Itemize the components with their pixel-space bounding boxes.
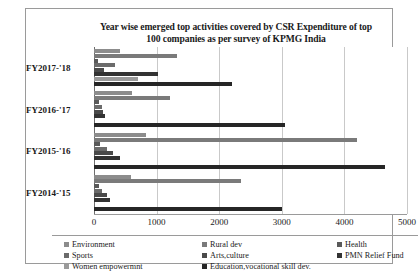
gridline-5000 [407,47,408,214]
legend-label: Rural dev [210,240,242,249]
x-axis-tick-label: 5000 [387,217,419,227]
legend-label: Women empowermnt [72,262,143,271]
bar [94,189,102,193]
bar [94,77,138,81]
bar-group [94,131,407,173]
bar [94,133,146,137]
chart-legend: EnvironmentRural devHealthSportsArts,cul… [52,235,418,273]
chart-frame: Year wise emerged top activities covered… [25,8,393,264]
legend-item[interactable]: Education,vocational skill dev. [202,262,311,271]
chart-title: Year wise emerged top activities covered… [62,21,410,44]
legend-label: Arts,culture [210,251,249,260]
bar [94,165,385,169]
bar [94,147,107,151]
x-axis-tick-label: 3000 [262,217,302,227]
bar [94,63,115,67]
bar [94,193,107,197]
bar [94,138,357,142]
bar [94,96,170,100]
y-axis-category-label: FY2014-'15 [26,188,92,198]
bar [94,179,241,183]
bar [94,82,232,86]
legend-swatch-icon [64,264,69,269]
legend-item[interactable]: Environment [64,240,115,249]
bar [94,142,100,146]
legend-item[interactable]: Arts,culture [202,251,249,260]
bar [94,184,99,188]
x-axis-tick-label: 0 [74,217,114,227]
legend-label: Sports [72,251,93,260]
x-axis-line [94,214,407,215]
bar [94,110,103,114]
bar-group [94,47,407,89]
legend-item[interactable]: Sports [64,251,93,260]
legend-swatch-icon [64,242,69,247]
legend-label: Environment [72,240,115,249]
bar [94,156,120,160]
bar [94,54,177,58]
y-axis-category-label: FY2016-'17 [26,105,92,115]
bar [94,123,285,127]
legend-swatch-icon [337,242,342,247]
bar-group [94,89,407,131]
bar [94,59,98,63]
bar [94,151,113,155]
y-axis-category-label: FY2017-'18 [26,63,92,73]
legend-swatch-icon [202,264,207,269]
bar [94,49,120,53]
plot-area [94,47,407,214]
bar-group [94,172,407,214]
bar [94,91,132,95]
bar [94,207,282,211]
bar [94,68,104,72]
legend-swatch-icon [202,253,207,258]
legend-item[interactable]: Women empowermnt [64,262,143,271]
legend-swatch-icon [202,242,207,247]
bar [94,105,102,109]
bar [94,198,110,202]
chart-title-line-1: Year wise emerged top activities covered… [62,21,410,33]
bar [94,175,131,179]
legend-label: Health [345,240,367,249]
legend-item[interactable]: Rural dev [202,240,242,249]
bar [94,114,105,118]
chart-title-line-2: 100 companies as per survey of KPMG Indi… [62,33,410,45]
legend-item[interactable]: Health [337,240,367,249]
bar [94,72,158,76]
legend-swatch-icon [64,253,69,258]
legend-label: PMN Relief Fund [345,251,404,260]
x-axis-tick-label: 1000 [137,217,177,227]
legend-item[interactable]: PMN Relief Fund [337,251,404,260]
legend-swatch-icon [337,253,342,258]
x-axis-tick-label: 4000 [324,217,364,227]
x-axis-tick-label: 2000 [199,217,239,227]
legend-label: Education,vocational skill dev. [210,262,311,271]
y-axis-category-label: FY2015-'16 [26,146,92,156]
bar [94,100,99,104]
